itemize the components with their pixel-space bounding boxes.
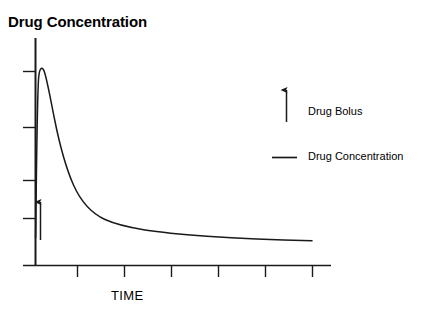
legend-label-drug-bolus: Drug Bolus — [308, 105, 362, 117]
y-axis-title: Drug Concentration — [8, 13, 147, 30]
drug-concentration-chart: Drug Concentration TIME Drug Bolus Drug … — [0, 0, 432, 320]
x-axis-title: TIME — [111, 288, 144, 303]
legend-label-drug-concentration: Drug Concentration — [308, 150, 403, 162]
y-axis-ticks — [23, 72, 35, 219]
drug-concentration-curve — [36, 68, 312, 241]
x-axis-ticks — [78, 266, 313, 277]
